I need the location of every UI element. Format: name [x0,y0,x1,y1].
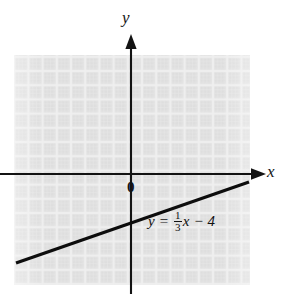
equation-variable: x [183,214,190,229]
coordinate-plane-svg [0,0,287,294]
equation-lhs: y [148,214,155,229]
equation-equals-sign: = [159,214,169,229]
x-axis-label: x [267,163,275,180]
y-axis-label: y [122,9,130,26]
equation-minus-sign: − [193,214,203,229]
equation-fraction: 1 3 [174,210,182,233]
fraction-denominator: 3 [174,222,182,233]
fraction-numerator: 1 [174,210,182,221]
equation-annotation: y = 1 3 x − 4 [148,210,215,233]
equation-constant: 4 [208,214,216,229]
origin-label: 0 [127,180,135,195]
graph-figure: y x 0 y = 1 3 x − 4 [0,0,287,294]
